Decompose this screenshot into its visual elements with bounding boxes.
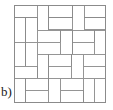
- tile-23: [49, 66, 72, 78]
- tile-06: [15, 18, 26, 43]
- tile-12: [73, 30, 95, 42]
- tile-03: [49, 6, 73, 18]
- tile-01: [15, 6, 38, 18]
- tile-13: [95, 30, 106, 54]
- tile-29: [83, 78, 94, 102]
- tile-09: [84, 18, 106, 30]
- tile-14: [15, 42, 26, 66]
- tile-02: [37, 6, 49, 31]
- tile-25: [15, 78, 26, 102]
- tile-19: [49, 54, 72, 66]
- tile-21: [83, 54, 106, 66]
- tile-15: [26, 42, 38, 66]
- tile-24: [83, 66, 106, 78]
- tile-group: [15, 6, 106, 103]
- tile-28: [60, 78, 83, 90]
- tile-22: [15, 66, 38, 78]
- tile-27: [49, 78, 61, 102]
- tile-26: [26, 78, 49, 90]
- tile-07: [26, 18, 38, 43]
- tile-30: [94, 78, 106, 102]
- tile-11: [61, 30, 73, 54]
- tile-17: [73, 42, 95, 54]
- tile-04: [73, 6, 85, 31]
- tiling-diagram: [0, 0, 113, 110]
- tile-16: [37, 42, 61, 54]
- panel-label: b): [1, 85, 12, 99]
- tile-32: [60, 90, 83, 102]
- tile-08: [49, 18, 73, 30]
- tile-31: [26, 90, 49, 102]
- tile-20: [72, 54, 84, 78]
- figure-panel-b: b): [0, 0, 113, 110]
- tile-18: [37, 54, 49, 78]
- tile-10: [37, 30, 61, 42]
- tile-05: [84, 6, 106, 18]
